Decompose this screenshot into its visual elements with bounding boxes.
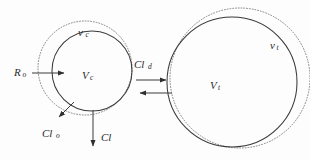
organ-clearance-arrow-line: [59, 102, 74, 117]
distribution-clearance-label: Cl d: [134, 58, 152, 71]
tissue-compartment-group: [167, 8, 310, 148]
pharmacokinetic-diagram: v c V c v t V t R o Cl d Cl: [0, 0, 310, 160]
distribution-clearance-label-subscript: d: [148, 62, 152, 71]
tissue-inner-label-subscript: t: [218, 83, 221, 92]
organ-clearance-label: Cl o: [42, 127, 60, 140]
tissue-inner-solid-circle: [167, 17, 297, 147]
tissue-outer-label-subscript: t: [277, 43, 280, 52]
input-rate-label-base: R: [13, 66, 21, 78]
input-rate-label-subscript: o: [23, 70, 27, 79]
total-clearance-label-base: Cl: [101, 131, 111, 143]
central-outer-label-base: v: [78, 26, 83, 38]
pk-diagram-container: v c V c v t V t R o Cl d Cl: [0, 0, 310, 160]
input-rate-label: R o: [13, 66, 27, 79]
tissue-outer-label-base: v: [270, 39, 275, 51]
distribution-clearance-label-base: Cl: [134, 58, 144, 70]
organ-clearance-label-base: Cl: [42, 127, 52, 139]
central-inner-label: V c: [82, 69, 94, 82]
central-inner-label-base: V: [82, 69, 90, 81]
tissue-outer-dotted-circle: [170, 8, 310, 148]
organ-clearance-arrow-group: [59, 102, 74, 117]
tissue-inner-label: V t: [210, 79, 221, 92]
tissue-outer-label: v t: [270, 39, 280, 52]
central-inner-solid-circle: [52, 31, 132, 111]
central-inner-label-subscript: c: [90, 73, 94, 82]
organ-clearance-label-subscript: o: [56, 131, 60, 140]
tissue-inner-label-base: V: [210, 79, 218, 91]
total-clearance-label: Cl: [101, 131, 111, 143]
